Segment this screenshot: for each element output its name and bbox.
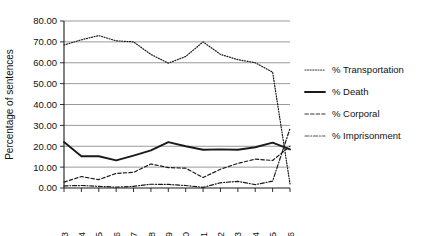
x-axis-ticks: 1763176417651766176717681769177017711772…	[59, 188, 296, 236]
x-tick-label: 1764	[76, 232, 87, 236]
line-chart: 0.0010.0020.0030.0040.0050.0060.0070.008…	[0, 0, 422, 236]
x-tick-label: 1767	[128, 232, 139, 236]
y-tick-label: 60.00	[33, 57, 57, 68]
y-tick-label: 20.00	[33, 141, 57, 152]
x-tick-label: 1774	[250, 232, 261, 236]
y-tick-label: 40.00	[33, 99, 57, 110]
chart-container: 0.0010.0020.0030.0040.0050.0060.0070.008…	[0, 0, 422, 236]
y-tick-label: 0.00	[39, 182, 58, 193]
x-tick-label: 1769	[163, 232, 174, 236]
y-tick-label: 80.00	[33, 15, 57, 26]
y-tick-label: 70.00	[33, 36, 57, 47]
x-tick-label: 1770	[180, 232, 191, 236]
y-axis-title: Percentage of sentences	[4, 49, 15, 160]
gridlines	[64, 21, 290, 167]
x-tick-label: 1771	[198, 232, 209, 236]
x-tick-label: 1763	[59, 232, 70, 236]
legend-label: % Death	[332, 86, 368, 97]
legend-label: % Imprisonment	[332, 130, 401, 141]
series-line	[64, 142, 290, 160]
legend-label: % Transportation	[332, 64, 404, 75]
x-tick-label: 1765	[93, 232, 104, 236]
legend-label: % Corporal	[332, 108, 380, 119]
x-tick-label: 1766	[111, 232, 122, 236]
chart-legend: % Transportation% Death% Corporal% Impri…	[305, 64, 404, 141]
x-tick-label: 1772	[215, 232, 226, 236]
data-series	[64, 36, 290, 188]
series-line	[64, 146, 290, 182]
series-line	[64, 129, 290, 188]
y-tick-label: 50.00	[33, 78, 57, 89]
y-axis-ticks: 0.0010.0020.0030.0040.0050.0060.0070.008…	[33, 15, 64, 193]
x-tick-label: 1773	[232, 232, 243, 236]
x-tick-label: 1775	[267, 232, 278, 236]
y-axis-title-text: Percentage of sentences	[4, 49, 15, 160]
x-tick-label: 1776	[285, 232, 296, 236]
x-tick-label: 1768	[146, 232, 157, 236]
y-tick-label: 10.00	[33, 162, 57, 173]
series-line	[64, 36, 290, 184]
y-tick-label: 30.00	[33, 120, 57, 131]
